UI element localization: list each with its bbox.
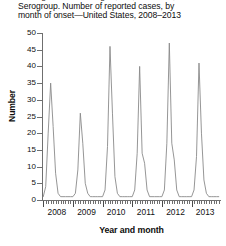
x-tick-minor-51 [169,201,170,204]
x-tick-minor-32 [122,201,123,204]
chart-title-line-3: month of onset—United States, 2008–2013 [18,11,220,21]
x-tick-minor-3 [51,201,52,204]
y-axis-title: Number [7,78,17,134]
y-tick-label-40: 40 [6,62,36,70]
x-tick-minor-59 [189,201,190,204]
x-tick-minor-30 [117,201,118,204]
x-tick-minor-55 [179,201,180,204]
chart-title: Meningococcal Meningitis, Hib, Neisseria… [18,0,220,21]
x-tick-minor-64 [201,201,202,204]
x-tick-minor-42 [147,201,148,204]
chart-figure: Meningococcal Meningitis, Hib, Neisseria… [0,0,226,246]
x-tick-label-2013: 2013 [188,208,222,217]
x-tick-minor-47 [159,201,160,204]
x-tick-minor-53 [174,201,175,204]
x-tick-minor-16 [83,201,84,204]
x-tick-minor-67 [209,201,210,204]
x-tick-minor-22 [98,201,99,204]
x-tick-major-48 [162,201,163,207]
x-tick-minor-70 [216,201,217,204]
data-series-line [42,33,220,200]
x-tick-minor-56 [182,201,183,204]
x-tick-minor-19 [90,201,91,204]
x-tick-minor-29 [115,201,116,204]
x-tick-minor-45 [154,201,155,204]
x-tick-minor-34 [127,201,128,204]
x-tick-minor-58 [187,201,188,204]
x-tick-minor-43 [150,201,151,204]
x-tick-minor-38 [137,201,138,204]
x-tick-minor-68 [211,201,212,204]
x-axis-title: Year and month [42,225,221,235]
x-tick-minor-9 [65,201,66,204]
x-tick-minor-39 [140,201,141,204]
x-tick-minor-27 [110,201,111,204]
y-tick-0 [37,200,43,201]
x-tick-minor-71 [219,201,220,204]
x-tick-minor-49 [164,201,165,204]
x-tick-minor-5 [56,201,57,204]
x-tick-minor-13 [75,201,76,204]
x-tick-minor-54 [177,201,178,204]
x-tick-minor-15 [80,201,81,204]
x-tick-minor-10 [68,201,69,204]
x-tick-minor-26 [108,201,109,204]
y-axis-tick-labels: 05101520253035404550 [0,0,36,246]
x-tick-minor-35 [130,201,131,204]
y-tick-label-10: 10 [6,163,36,171]
x-tick-minor-4 [53,201,54,204]
x-tick-minor-41 [145,201,146,204]
x-tick-minor-57 [184,201,185,204]
x-tick-minor-7 [61,201,62,204]
x-tick-major-24 [103,201,104,207]
y-tick-label-45: 45 [6,46,36,54]
y-tick-label-15: 15 [6,146,36,154]
x-tick-major-36 [132,201,133,207]
x-tick-minor-21 [95,201,96,204]
x-tick-minor-69 [214,201,215,204]
x-tick-minor-40 [142,201,143,204]
x-tick-minor-8 [63,201,64,204]
x-tick-major-60 [192,201,193,207]
x-tick-minor-44 [152,201,153,204]
x-tick-minor-2 [48,201,49,204]
y-tick-label-0: 0 [6,196,36,204]
x-tick-minor-23 [100,201,101,204]
x-tick-minor-46 [157,201,158,204]
x-tick-minor-28 [112,201,113,204]
x-tick-minor-17 [85,201,86,204]
x-tick-minor-1 [46,201,47,204]
x-tick-major-0 [43,201,44,207]
x-tick-minor-66 [206,201,207,204]
x-tick-minor-37 [135,201,136,204]
x-tick-minor-6 [58,201,59,204]
x-tick-minor-11 [70,201,71,204]
x-tick-minor-18 [88,201,89,204]
x-tick-minor-25 [105,201,106,204]
x-tick-minor-61 [194,201,195,204]
x-tick-minor-31 [120,201,121,204]
x-tick-minor-33 [125,201,126,204]
y-tick-label-50: 50 [6,29,36,37]
x-tick-minor-50 [167,201,168,204]
x-tick-minor-62 [197,201,198,204]
x-tick-minor-63 [199,201,200,204]
chart-title-line-1: Meningococcal Meningitis, Hib, Neisseria… [18,0,220,2]
x-tick-minor-20 [93,201,94,204]
x-tick-minor-14 [78,201,79,204]
x-tick-major-12 [73,201,74,207]
y-tick-label-5: 5 [6,179,36,187]
x-tick-minor-52 [172,201,173,204]
x-tick-minor-65 [204,201,205,204]
